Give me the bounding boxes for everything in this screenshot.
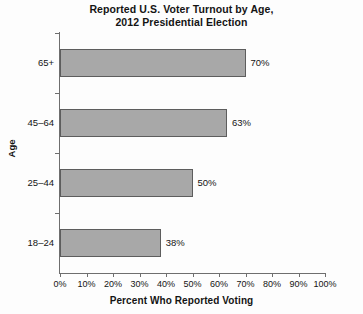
x-tick-label: 30% <box>130 279 148 289</box>
bar-65+ <box>60 49 246 77</box>
bar-25-44 <box>60 169 193 197</box>
x-axis-tick <box>246 273 247 277</box>
plot-area <box>60 33 325 273</box>
x-axis-tick <box>87 273 88 277</box>
x-axis-tick <box>193 273 194 277</box>
chart-title: Reported U.S. Voter Turnout by Age, 2012… <box>0 3 363 29</box>
x-tick-label: 10% <box>77 279 95 289</box>
x-axis-tick <box>113 273 114 277</box>
category-label: 65+ <box>2 58 54 68</box>
x-axis-tick <box>219 273 220 277</box>
x-tick-label: 60% <box>210 279 228 289</box>
y-axis-tick <box>55 213 59 214</box>
x-tick-label: 0% <box>53 279 66 289</box>
x-axis-tick <box>272 273 273 277</box>
x-tick-label: 50% <box>183 279 201 289</box>
bar-chart: Reported U.S. Voter Turnout by Age, 2012… <box>0 0 363 314</box>
y-axis-title: Age <box>6 129 17 169</box>
bar-45-64 <box>60 109 227 137</box>
x-tick-label: 40% <box>157 279 175 289</box>
x-axis-title: Percent Who Reported Voting <box>0 295 363 307</box>
x-axis-tick <box>166 273 167 277</box>
chart-title-line-2: 2012 Presidential Election <box>0 16 363 29</box>
y-axis-tick <box>55 93 59 94</box>
x-axis-tick <box>140 273 141 277</box>
x-tick-label: 100% <box>313 279 336 289</box>
x-axis-tick <box>60 273 61 277</box>
bar-value-label: 38% <box>166 238 185 248</box>
bar-18-24 <box>60 229 161 257</box>
x-tick-label: 80% <box>263 279 281 289</box>
bar-value-label: 50% <box>198 178 217 188</box>
x-axis-tick <box>325 273 326 277</box>
category-label: 25–44 <box>2 178 54 188</box>
y-axis-tick <box>55 33 59 34</box>
chart-title-line-1: Reported U.S. Voter Turnout by Age, <box>0 3 363 16</box>
bar-value-label: 70% <box>251 58 270 68</box>
x-tick-label: 20% <box>104 279 122 289</box>
bar-value-label: 63% <box>232 118 251 128</box>
category-label: 18–24 <box>2 238 54 248</box>
x-axis-tick <box>299 273 300 277</box>
x-tick-label: 90% <box>289 279 307 289</box>
category-label: 45–64 <box>2 118 54 128</box>
y-axis-tick <box>55 153 59 154</box>
x-tick-label: 70% <box>236 279 254 289</box>
